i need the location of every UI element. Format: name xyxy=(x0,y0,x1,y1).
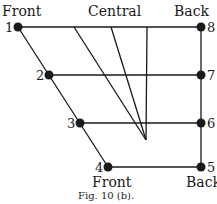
point-8-dot xyxy=(197,23,206,32)
point-6-label: 6 xyxy=(207,117,215,130)
point-6-dot xyxy=(197,119,206,128)
point-2-dot xyxy=(45,71,54,80)
point-1-dot xyxy=(14,23,23,32)
point-5-label: 5 xyxy=(207,161,215,174)
point-7-dot xyxy=(197,71,206,80)
point-3-label: 3 xyxy=(67,117,75,130)
label-back-top: Back xyxy=(174,4,209,18)
point-4-label: 4 xyxy=(95,161,103,174)
point-7-label: 7 xyxy=(207,69,215,82)
point-8-label: 8 xyxy=(207,21,215,34)
point-1-label: 1 xyxy=(5,21,13,34)
point-3-dot xyxy=(76,119,85,128)
point-5-dot xyxy=(197,163,206,172)
label-back-bottom: Back xyxy=(186,175,217,189)
point-2-label: 2 xyxy=(36,69,44,82)
point-4-dot xyxy=(104,163,113,172)
label-front-top: Front xyxy=(2,4,41,18)
label-front-bottom: Front xyxy=(92,175,131,189)
figure-caption: Fig. 10 (b). xyxy=(78,191,134,201)
line-front-edge xyxy=(18,27,108,167)
label-central: Central xyxy=(88,4,141,18)
